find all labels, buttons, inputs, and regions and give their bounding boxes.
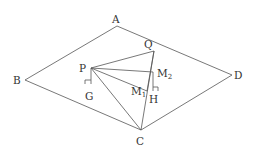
label-p: P bbox=[79, 62, 86, 74]
label-m2: M2 bbox=[157, 67, 172, 81]
segment-pq bbox=[91, 51, 154, 68]
geometry-diagram: A B C D Q P G H M2 M1 bbox=[0, 0, 257, 156]
label-d: D bbox=[234, 69, 242, 81]
label-h: H bbox=[149, 93, 158, 105]
segment-pc bbox=[91, 68, 141, 130]
label-q: Q bbox=[144, 38, 153, 50]
right-angle-mark-g bbox=[85, 80, 91, 84]
label-g: G bbox=[85, 90, 93, 102]
right-angle-mark-h bbox=[153, 87, 158, 91]
label-m1: M1 bbox=[131, 85, 146, 99]
label-b: B bbox=[13, 74, 21, 86]
label-c: C bbox=[136, 135, 144, 147]
label-a: A bbox=[111, 13, 120, 25]
